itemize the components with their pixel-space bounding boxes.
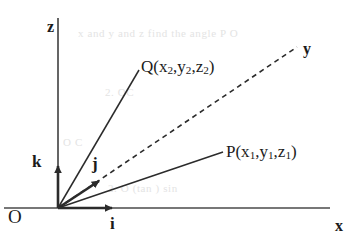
point-label-Q: Q(x2,y2,z2) — [141, 58, 215, 77]
point-label-P-suffix: ) — [291, 142, 297, 161]
vector-OQ-line — [58, 70, 139, 208]
point-label-Q-suffix: ) — [209, 57, 215, 76]
point-label-P-prefix: P(x — [226, 142, 250, 161]
origin-label: O — [8, 207, 22, 226]
axis-label-y: y — [303, 41, 311, 57]
point-label-P: P(x1,y1,z1) — [226, 143, 297, 162]
basis-label-k: k — [32, 153, 41, 170]
basis-vector-j-arrow — [58, 181, 99, 208]
point-label-P-mid2: ,z — [274, 142, 286, 161]
point-label-Q-prefix: Q(x — [141, 57, 167, 76]
diagram-canvas — [0, 0, 356, 246]
basis-label-j: j — [92, 155, 98, 172]
vector-diagram-figure: x and y and z find the angle P O 2. OC O… — [0, 0, 356, 246]
point-label-Q-mid2: ,z — [191, 57, 203, 76]
axis-label-z: z — [47, 19, 54, 35]
axis-label-x: x — [335, 218, 343, 234]
basis-label-i: i — [110, 215, 115, 232]
vector-OP-line — [58, 152, 223, 208]
point-label-Q-mid1: ,y — [173, 57, 186, 76]
point-label-P-mid1: ,y — [255, 142, 268, 161]
